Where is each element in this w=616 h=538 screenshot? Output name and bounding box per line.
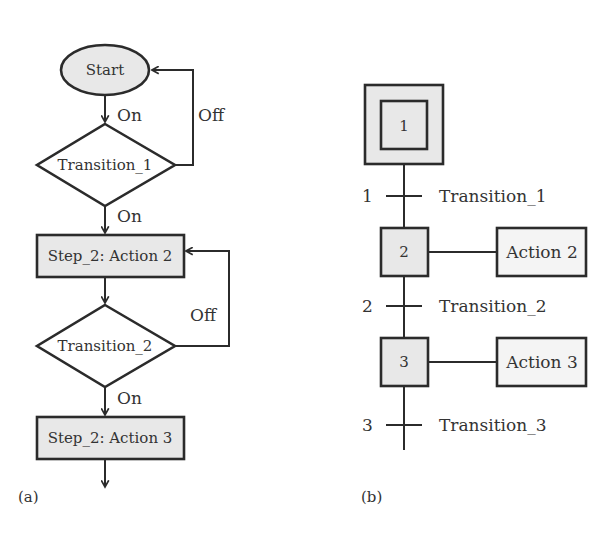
transition-3-number: 3: [362, 415, 373, 435]
sfc-panel-b: 1 1 Transition_1 2 Action 2 2 Transition…: [361, 85, 586, 506]
transition-1-off-label: Off: [198, 105, 226, 125]
transition-1-on-label: On: [117, 206, 142, 226]
transition-1-number: 1: [362, 186, 373, 206]
arrow-transition-1-off-loop: [152, 70, 193, 165]
step-3-label: Step_2: Action 3: [48, 429, 173, 447]
transition-1-label: Transition_1: [58, 156, 153, 174]
transition-2-text: Transition_2: [439, 296, 546, 316]
transition-2-number: 2: [362, 296, 373, 316]
action-3-label: Action 3: [505, 352, 577, 372]
step-3-number: 3: [399, 353, 409, 371]
flowchart-panel-a: Start On Transition_1 Off On Step_2: Act…: [18, 45, 229, 506]
step-1-number: 1: [399, 117, 409, 135]
transition-2-on-label: On: [117, 388, 142, 408]
diagram-canvas: Start On Transition_1 Off On Step_2: Act…: [0, 0, 616, 538]
transition-2-off-label: Off: [190, 305, 218, 325]
action-2-label: Action 2: [505, 242, 577, 262]
transition-3-text: Transition_3: [439, 415, 546, 435]
caption-b: (b): [361, 488, 382, 506]
caption-a: (a): [18, 488, 39, 506]
step-2-number: 2: [399, 243, 409, 261]
step-2-label: Step_2: Action 2: [48, 247, 173, 265]
start-on-label: On: [117, 105, 142, 125]
start-label: Start: [86, 61, 124, 79]
transition-1-text: Transition_1: [439, 186, 546, 206]
transition-2-label: Transition_2: [58, 337, 153, 355]
